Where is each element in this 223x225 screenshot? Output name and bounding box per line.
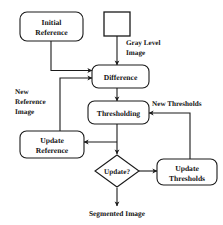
node-update-decision-label: Update?	[104, 168, 130, 176]
flowchart-canvas: Initial Reference Difference Thresholdin…	[0, 0, 223, 225]
edge-label-new-reference-line1: New	[15, 88, 29, 96]
edge-label-gray-level-line1: Gray Level	[126, 39, 161, 47]
node-thresholding-label: Thresholding	[97, 109, 141, 118]
node-initial-reference-label-line1: Initial	[42, 18, 62, 27]
edge-initial-reference-to-difference	[51, 41, 92, 71]
edge-label-gray-level-line2: Image	[126, 49, 145, 57]
node-gray-level-source[interactable]	[104, 12, 130, 36]
node-initial-reference-label-line2: Reference	[35, 28, 68, 37]
edge-label-new-thresholds: New Thresholds	[152, 100, 202, 108]
output-label: Segmented Image	[89, 209, 146, 218]
node-difference-label: Difference	[104, 73, 138, 82]
flowchart-diagram: Initial Reference Difference Thresholdin…	[0, 0, 223, 225]
node-update-reference-label-line1: Update	[40, 136, 64, 145]
node-update-reference-label-line2: Reference	[36, 146, 69, 155]
edge-label-new-reference-line3: Image	[15, 108, 34, 116]
edge-update-thresholds-to-thresholding	[149, 113, 190, 159]
node-update-thresholds-label-line2: Thresholds	[169, 174, 205, 183]
node-update-thresholds-label-line1: Update	[175, 164, 199, 173]
edge-label-new-reference-line2: Reference	[15, 98, 46, 106]
edge-update-reference-to-difference	[60, 78, 92, 131]
